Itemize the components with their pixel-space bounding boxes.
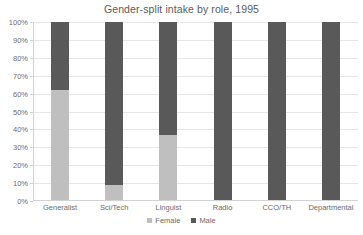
y-axis-tick-label: 90% <box>13 35 28 44</box>
bar-segment-male[interactable] <box>159 22 177 135</box>
y-axis-tick-label: 30% <box>13 143 28 152</box>
gridline <box>33 147 358 148</box>
plot-area <box>33 22 358 201</box>
y-axis-tick-label: 40% <box>13 125 28 134</box>
bar-segment-male[interactable] <box>51 22 69 90</box>
gridline <box>33 129 358 130</box>
bar-segment-male[interactable] <box>105 22 123 185</box>
bar-segment-female[interactable] <box>105 185 123 201</box>
y-axis-tick-label: 0% <box>17 197 28 206</box>
x-axis: GeneralistSci/TechLinguistRadioCCO/THDep… <box>33 203 358 217</box>
chart-legend: FemaleMale <box>0 216 363 225</box>
bar-segment-female[interactable] <box>159 135 177 201</box>
gridline <box>33 22 358 23</box>
legend-swatch-female <box>147 218 152 223</box>
chart-title: Gender-split intake by role, 1995 <box>0 3 363 15</box>
bar-stack <box>322 22 340 201</box>
bar-stack <box>159 22 177 201</box>
legend-label: Female <box>155 216 180 225</box>
legend-swatch-male <box>191 218 196 223</box>
y-axis-tick-label: 20% <box>13 161 28 170</box>
y-axis-line <box>33 22 34 201</box>
y-axis-tick-label: 10% <box>13 179 28 188</box>
x-axis-tick-label: Generalist <box>43 203 77 212</box>
y-axis: 0%10%20%30%40%50%60%70%80%90%100% <box>0 22 33 201</box>
legend-item[interactable]: Male <box>191 216 215 225</box>
bar-stack <box>51 22 69 201</box>
x-axis-tick-label: Departmental <box>308 203 353 212</box>
bar-stack <box>105 22 123 201</box>
bar-stack <box>268 22 286 201</box>
legend-label: Male <box>199 216 215 225</box>
x-axis-tick-label: CCO/TH <box>262 203 291 212</box>
gridline <box>33 165 358 166</box>
bar-group[interactable] <box>159 22 177 201</box>
bar-segment-male[interactable] <box>322 22 340 201</box>
y-axis-tick-label: 100% <box>9 18 28 27</box>
gridline <box>33 183 358 184</box>
y-axis-tick-label: 70% <box>13 71 28 80</box>
bar-group[interactable] <box>51 22 69 201</box>
x-axis-tick-label: Linguist <box>155 203 181 212</box>
bar-segment-male[interactable] <box>268 22 286 201</box>
gridline <box>33 58 358 59</box>
gridline <box>33 76 358 77</box>
y-axis-tick-label: 50% <box>13 107 28 116</box>
x-axis-tick-label: Radio <box>213 203 233 212</box>
gridline <box>33 94 358 95</box>
bar-group[interactable] <box>105 22 123 201</box>
chart-container: Gender-split intake by role, 1995 0%10%2… <box>0 0 363 235</box>
bar-segment-male[interactable] <box>214 22 232 201</box>
gridline <box>33 40 358 41</box>
x-axis-tick-label: Sci/Tech <box>100 203 128 212</box>
legend-item[interactable]: Female <box>147 216 180 225</box>
bar-group[interactable] <box>268 22 286 201</box>
gridline <box>33 112 358 113</box>
y-axis-tick-label: 80% <box>13 53 28 62</box>
bar-group[interactable] <box>322 22 340 201</box>
y-axis-tick-mark <box>30 201 33 202</box>
bar-stack <box>214 22 232 201</box>
bar-group[interactable] <box>214 22 232 201</box>
x-axis-line <box>33 200 358 201</box>
bar-segment-female[interactable] <box>51 90 69 201</box>
y-axis-tick-label: 60% <box>13 89 28 98</box>
